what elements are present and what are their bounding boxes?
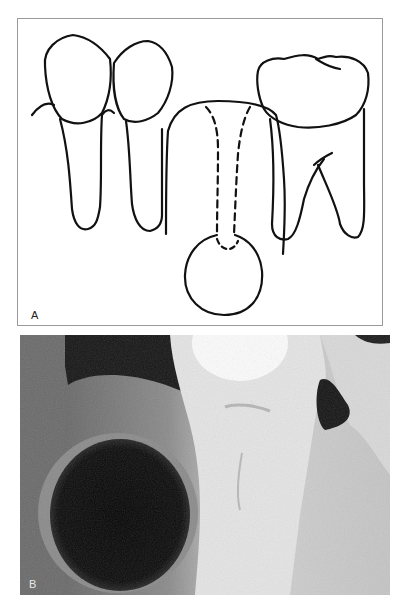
- teeth-diagram: [18, 19, 384, 327]
- resorbed-root-bottom: [217, 239, 238, 249]
- tooth-1-root: [60, 115, 102, 229]
- resorbed-root-left: [206, 107, 218, 234]
- panel-a-label: A: [31, 309, 38, 321]
- resorbed-root-right: [234, 107, 250, 234]
- gum-line: [32, 104, 54, 115]
- tooth-2-root: [126, 121, 162, 231]
- molar-furcation: [314, 153, 332, 165]
- primary-tooth-left-side: [166, 131, 168, 234]
- tooth-1-crown: [45, 35, 111, 123]
- radiograph-image: [20, 335, 390, 595]
- molar-root-left: [270, 119, 324, 239]
- molar-cusp: [316, 59, 340, 69]
- molar-crown: [257, 55, 368, 127]
- panel-b-label: B: [29, 578, 36, 590]
- panel-a-line-drawing: A: [17, 18, 383, 326]
- molar-root-right: [318, 109, 364, 237]
- film-grain: [20, 335, 390, 595]
- panel-b-radiograph: B: [20, 335, 390, 595]
- tooth-2-crown: [113, 41, 172, 122]
- primary-tooth-outline: [168, 101, 285, 254]
